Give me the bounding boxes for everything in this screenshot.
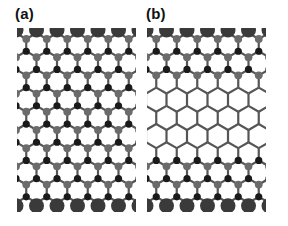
edge-atom-large (159, 198, 174, 213)
lattice-atom (255, 193, 262, 200)
lattice-atom (183, 175, 190, 182)
lattice-atom (122, 162, 130, 170)
lattice-atom (235, 48, 242, 55)
lattice-atom (255, 48, 262, 55)
lattice-atom (214, 35, 222, 43)
edge-atom-large (200, 23, 215, 38)
lattice-atom (173, 35, 181, 43)
edge-atom-large (282, 23, 288, 38)
lattice-atom (265, 66, 272, 73)
edge-atom-large (241, 198, 256, 213)
edge-atom-large (180, 198, 195, 213)
lattice-atom (193, 181, 201, 189)
lattice-atom (152, 35, 160, 43)
lattice-atom (152, 181, 160, 189)
lattice-atom (245, 53, 253, 61)
lattice-atom (193, 35, 201, 43)
edge-atom-large (180, 23, 195, 38)
edge-atom-large (118, 23, 133, 38)
lattice-atom (224, 66, 231, 73)
lattice-atom (153, 48, 160, 55)
lattice-atom (183, 53, 191, 61)
lattice-atom (173, 48, 180, 55)
lattice-atom (224, 162, 232, 170)
lattice-atom (122, 66, 129, 73)
lattice-atom (204, 53, 212, 61)
lattice-atom (204, 66, 211, 73)
edge-atom-large (139, 23, 154, 38)
lattice-atom (204, 162, 212, 170)
lattice-atom (194, 193, 201, 200)
edge-atom-large (262, 23, 277, 38)
lattice-atom (122, 175, 129, 182)
lattice-atom (132, 71, 140, 79)
lattice-atom (286, 53, 288, 61)
lattice-atom (234, 71, 242, 79)
lattice-atom (275, 71, 283, 79)
lattice-atom (265, 53, 273, 61)
edge-atom-large (200, 198, 215, 213)
edge-atom-large (262, 198, 277, 213)
edge-atom-large (118, 198, 133, 213)
lattice-atom (142, 53, 150, 61)
atom-layer (118, 23, 288, 214)
lattice-atom (265, 162, 273, 170)
lattice-atom (235, 193, 242, 200)
lattice-atom (255, 157, 262, 164)
lattice-atom (286, 162, 288, 170)
lattice-atom (234, 181, 242, 189)
lattice-atom (286, 66, 288, 73)
lattice-atom (142, 162, 150, 170)
lattice-atom (132, 181, 140, 189)
lattice-atom (122, 53, 130, 61)
lattice-atom (224, 175, 231, 182)
lattice-atom (163, 162, 171, 170)
lattice-atom (163, 175, 170, 182)
edge-atom-large (282, 198, 288, 213)
lattice-atom (214, 71, 222, 79)
lattice-atom (153, 157, 160, 164)
lattice-atom (235, 157, 242, 164)
lattice-atom (132, 35, 140, 43)
lattice-atom (255, 71, 263, 79)
lattice-atom (142, 66, 149, 73)
edge-atom-large (221, 23, 236, 38)
lattice-atom (193, 71, 201, 79)
lattice-atom (255, 35, 263, 43)
lattice-atom (214, 48, 221, 55)
lattice-atom (204, 175, 211, 182)
lattice-atom (276, 48, 283, 55)
lattice-atom (275, 35, 283, 43)
lattice-atom (224, 53, 232, 61)
lattice-atom (163, 66, 170, 73)
lattice-atom (245, 162, 253, 170)
lattice-atom (173, 193, 180, 200)
lattice-atom (142, 175, 149, 182)
lattice-atom (153, 193, 160, 200)
edge-atom-large (241, 23, 256, 38)
edge-atom-large (221, 198, 236, 213)
lattice-atom (214, 181, 222, 189)
edge-atom-large (159, 23, 174, 38)
lattice-atom (173, 181, 181, 189)
lattice-atom (245, 175, 252, 182)
lattice-atom (152, 71, 160, 79)
lattice-atom (265, 175, 272, 182)
lattice-atom (194, 157, 201, 164)
lattice-atom (194, 48, 201, 55)
lattice-atom (245, 66, 252, 73)
lattice-atom (214, 193, 221, 200)
lattice-atom (183, 162, 191, 170)
lattice-atom (255, 181, 263, 189)
lattice-atom (132, 193, 139, 200)
lattice-atom (276, 157, 283, 164)
edge-atom-large (139, 198, 154, 213)
lattice-atom (163, 53, 171, 61)
lattice-atom (132, 157, 139, 164)
lattice-atom (173, 157, 180, 164)
lattice-atom (276, 193, 283, 200)
lattice-atom (132, 48, 139, 55)
lattice-atom (286, 175, 288, 182)
lattice-atom (183, 66, 190, 73)
lattice-panel-b (0, 0, 288, 226)
